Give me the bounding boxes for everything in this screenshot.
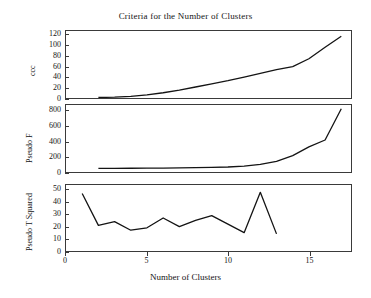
y-tick-mark [65,173,69,174]
panel-pseudo-t-squared [65,184,352,252]
x-axis-label: Number of Clusters [0,272,371,282]
pseudo-t-squared-ytick-labels: 01020304050 [31,184,61,252]
ccc-plot-area [66,31,351,98]
y-tick-label: 0 [57,95,61,103]
y-tick-mark [65,77,69,78]
y-tick-label: 20 [53,223,61,231]
y-tick-mark [65,227,69,228]
y-tick-mark [65,214,69,215]
y-tick-label: 100 [49,41,61,49]
y-tick-label: 200 [49,153,61,161]
y-tick-label: 40 [53,198,61,206]
y-tick-label: 10 [53,235,61,243]
y-tick-mark [65,189,69,190]
y-tick-label: 120 [49,30,61,38]
y-tick-label: 800 [49,106,61,114]
y-tick-mark [65,99,69,100]
y-tick-label: 600 [49,122,61,130]
y-tick-label: 400 [49,138,61,146]
series-line [98,109,341,169]
x-tick-mark [310,252,311,256]
panel-pseudo-f [65,104,352,173]
x-tick-label: 10 [224,256,232,265]
x-axis-tick-labels: 051015 [65,256,352,268]
pseudo-t-squared-axis-label: Pseudo T Squared [25,193,34,251]
y-tick-mark [65,157,69,158]
series-line [82,192,276,234]
x-tick-mark [147,252,148,256]
y-tick-mark [65,202,69,203]
x-tick-label: 5 [145,256,149,265]
x-tick-mark [228,252,229,256]
x-tick-mark [65,252,66,256]
y-tick-label: 40 [53,73,61,81]
y-tick-mark [65,88,69,89]
y-tick-mark [65,67,69,68]
y-tick-mark [65,110,69,111]
series-line [98,36,341,97]
ccc-axis-label: ccc [28,65,37,76]
x-tick-label: 15 [306,256,314,265]
y-tick-mark [65,142,69,143]
y-tick-mark [65,126,69,127]
page-title: Criteria for the Number of Clusters [0,11,371,21]
y-tick-label: 50 [53,185,61,193]
pseudo-t-squared-plot-area [66,185,351,251]
y-tick-mark [65,45,69,46]
y-tick-label: 0 [57,169,61,177]
y-tick-label: 20 [53,84,61,92]
y-tick-label: 30 [53,210,61,218]
y-tick-mark [65,239,69,240]
y-tick-mark [65,56,69,57]
y-tick-label: 0 [57,248,61,256]
pseudo-f-plot-area [66,105,351,172]
pseudo-f-axis-label: Pseudo F [25,133,34,163]
y-tick-label: 80 [53,52,61,60]
x-tick-label: 0 [63,256,67,265]
criteria-figure: Criteria for the Number of Clusters 0204… [0,0,371,298]
pseudo-f-ytick-labels: 0200400600800 [31,104,61,173]
y-tick-mark [65,34,69,35]
y-tick-label: 60 [53,63,61,71]
panel-ccc [65,30,352,99]
